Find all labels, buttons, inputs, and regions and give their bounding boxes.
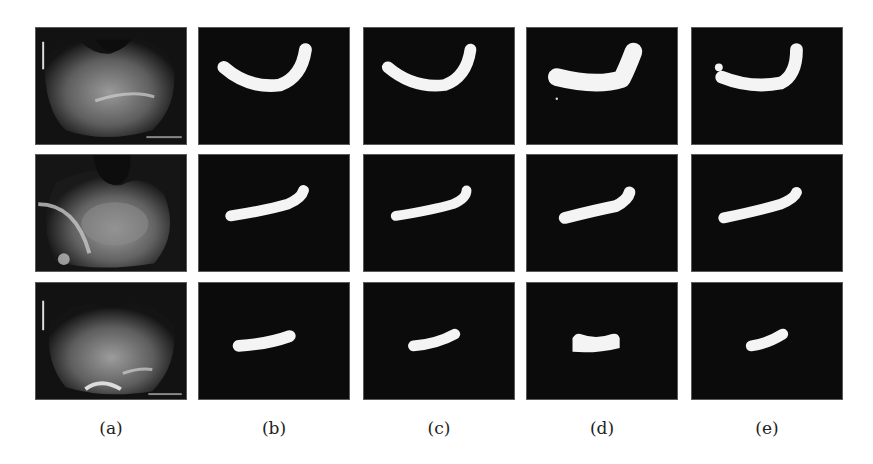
mask-row1-c [363,27,515,145]
ultrasound-image-row3 [35,282,187,400]
ultrasound-image-row1 [35,27,187,145]
column-label-a: (a) [35,418,187,438]
column-label-b: (b) [198,418,350,438]
mask-row2-e [691,154,843,272]
mask-row3-c [363,282,515,400]
mask-row2-c [363,154,515,272]
mask-row2-d [526,154,678,272]
ultrasound-image-row2 [35,154,187,272]
mask-row3-e [691,282,843,400]
column-label-d: (d) [526,418,678,438]
column-label-e: (e) [691,418,843,438]
column-label-c: (c) [363,418,515,438]
mask-row2-b [198,154,350,272]
mask-row3-d [526,282,678,400]
mask-row1-d [526,27,678,145]
mask-row1-b [198,27,350,145]
mask-row3-b [198,282,350,400]
mask-row1-e [691,27,843,145]
